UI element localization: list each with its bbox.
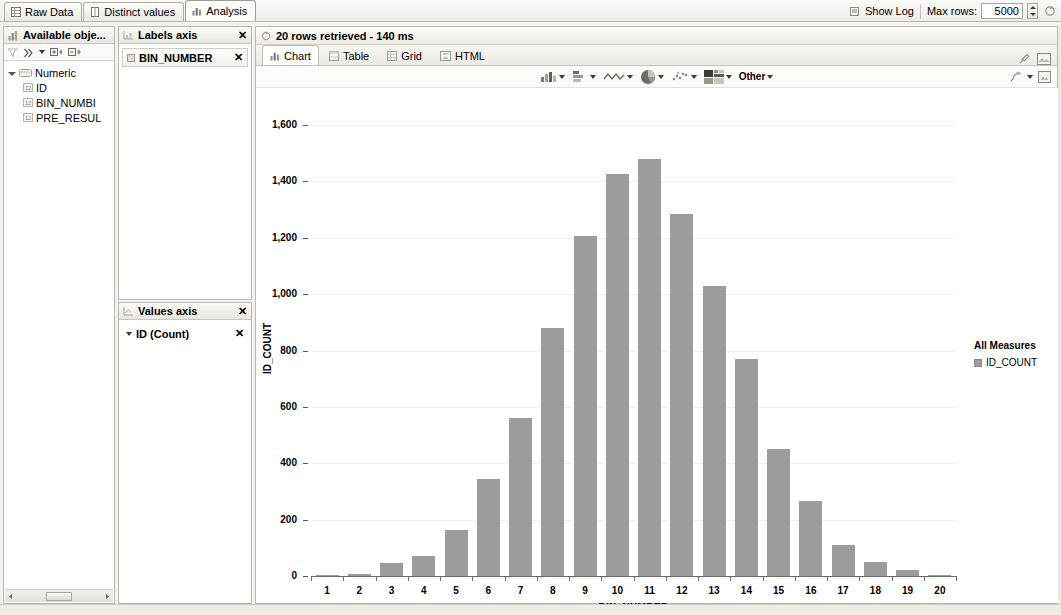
bar[interactable] (574, 236, 597, 576)
bar[interactable] (316, 575, 339, 576)
y-axis-tick-label: 1,200 (256, 232, 297, 243)
line-chart-icon[interactable] (603, 70, 625, 83)
bar[interactable] (380, 563, 403, 576)
svg-text:12: 12 (25, 85, 31, 91)
bar[interactable] (670, 214, 693, 576)
bar[interactable] (767, 449, 790, 576)
close-icon[interactable]: ✕ (238, 305, 247, 318)
chart-canvas[interactable]: ID_COUNT02004006008001,0001,2001,4001,60… (256, 88, 1059, 603)
bar[interactable] (799, 501, 822, 576)
chevron-down-icon[interactable] (658, 75, 664, 79)
bar[interactable] (735, 359, 758, 576)
available-objects-hscrollbar[interactable] (5, 589, 113, 602)
max-rows-input[interactable]: 5000 (981, 3, 1023, 19)
tree-label: BIN_NUMBI (36, 97, 96, 109)
tab-raw-data[interactable]: Raw Data (4, 2, 82, 21)
bar[interactable] (928, 575, 951, 576)
gridline (311, 294, 956, 295)
y-axis-tick-mark (303, 181, 308, 182)
chart-type-pie[interactable] (638, 69, 666, 85)
bar[interactable] (412, 556, 435, 576)
bar[interactable] (348, 574, 371, 576)
bar[interactable] (896, 570, 919, 576)
collapse-all-icon[interactable] (68, 47, 81, 58)
chevron-down-icon[interactable] (8, 72, 16, 76)
max-rows-stepper[interactable] (1027, 3, 1038, 19)
close-icon[interactable]: ✕ (238, 29, 247, 42)
filter-icon[interactable] (7, 47, 18, 58)
refresh-icon[interactable] (1044, 5, 1056, 17)
legend-item[interactable]: ID_COUNT (974, 357, 1037, 368)
bar[interactable] (606, 174, 629, 576)
field-icon (127, 54, 135, 62)
x-axis-tick-mark (730, 576, 731, 581)
pin-icon[interactable] (1018, 52, 1031, 65)
chart-legend: All MeasuresID_COUNT (974, 340, 1037, 368)
y-axis-tick-mark (303, 407, 308, 408)
tab-chart[interactable]: Chart (262, 45, 319, 65)
export-image-icon[interactable] (1037, 53, 1051, 65)
bar[interactable] (864, 562, 887, 576)
pie-chart-icon[interactable] (640, 69, 656, 85)
fullscreen-icon[interactable] (1038, 71, 1051, 83)
values-axis-field-id-count[interactable]: ID (Count) ✕ (122, 324, 248, 343)
show-log-button[interactable]: Show Log (865, 5, 914, 17)
bar[interactable] (832, 545, 855, 576)
tab-label: Table (343, 50, 369, 62)
scroll-right-arrow-icon[interactable] (104, 593, 111, 600)
dropdown-caret-icon[interactable] (39, 50, 45, 54)
bar[interactable] (477, 479, 500, 576)
expand-all-icon[interactable] (50, 47, 63, 58)
chevron-down-icon[interactable] (627, 75, 633, 79)
tab-grid[interactable]: Grid (379, 46, 430, 65)
bar[interactable] (445, 530, 468, 577)
tab-distinct-values[interactable]: Distinct values (83, 2, 184, 21)
scroll-thumb[interactable] (46, 592, 72, 601)
tree-node-pre-result[interactable]: 12 PRE_RESUL (6, 110, 112, 125)
scroll-left-arrow-icon[interactable] (7, 593, 14, 600)
x-axis-tick-mark (601, 576, 602, 581)
refresh-icon[interactable] (261, 31, 271, 41)
heatmap-chart-icon[interactable] (704, 70, 724, 84)
x-axis-tick-label: 4 (413, 585, 435, 596)
bar[interactable] (703, 286, 726, 576)
available-objects-panel: Available obje... Numeric (3, 26, 115, 604)
bar[interactable] (509, 418, 532, 576)
chart-type-line[interactable] (601, 70, 635, 83)
chart-type-stacked[interactable] (570, 70, 598, 83)
labels-axis-field-bin-number[interactable]: BIN_NUMBER ✕ (122, 48, 248, 67)
scatter-chart-icon[interactable] (671, 70, 689, 83)
field-label: ID (Count) (136, 328, 189, 340)
other-label: Other (739, 71, 766, 82)
chevron-down-icon[interactable] (590, 75, 596, 79)
bar-chart-icon[interactable] (540, 70, 557, 83)
x-axis-tick-mark (505, 576, 506, 581)
chart-type-scatter[interactable] (669, 70, 699, 83)
settings-icon[interactable] (1008, 71, 1022, 84)
chart-type-other[interactable]: Other (737, 71, 776, 82)
chart-type-heatmap[interactable] (702, 70, 734, 84)
tab-html[interactable]: nonabc HTML (432, 46, 493, 65)
tab-table[interactable]: Table (321, 46, 377, 65)
chevron-down-icon[interactable] (126, 332, 132, 336)
remove-field-icon[interactable]: ✕ (234, 51, 243, 64)
bar[interactable] (541, 328, 564, 576)
chevron-down-icon[interactable] (767, 75, 773, 79)
y-axis-tick-label: 200 (256, 514, 297, 525)
tree-node-id[interactable]: 12 ID (6, 80, 112, 95)
chevron-down-icon[interactable] (691, 75, 697, 79)
bar-chart-icon (192, 6, 202, 16)
chart-type-bar[interactable] (538, 70, 567, 83)
sort-icon[interactable] (23, 47, 34, 58)
chevron-down-icon[interactable] (1027, 75, 1033, 79)
chevron-down-icon[interactable] (559, 75, 565, 79)
bar[interactable] (638, 159, 661, 576)
stacked-chart-icon[interactable] (572, 70, 588, 83)
remove-field-icon[interactable]: ✕ (235, 327, 244, 340)
tree-node-bin-number[interactable]: 12 BIN_NUMBI (6, 95, 112, 110)
tab-label: Distinct values (104, 6, 175, 18)
tree-node-numeric[interactable]: Numeric (6, 65, 112, 80)
chevron-down-icon[interactable] (726, 75, 732, 79)
tab-label: Analysis (206, 5, 247, 17)
tab-analysis[interactable]: Analysis (185, 0, 256, 21)
